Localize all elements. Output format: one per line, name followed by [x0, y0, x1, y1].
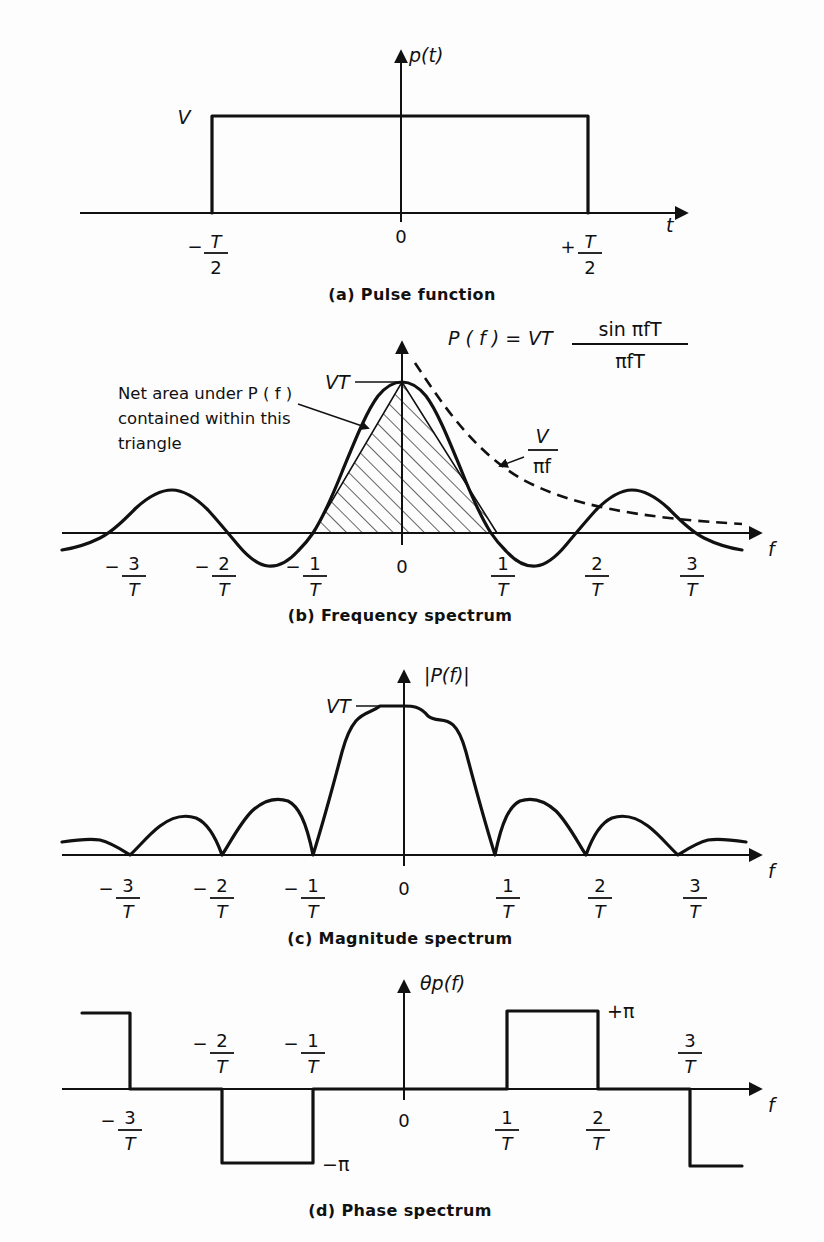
- svg-text:2: 2: [216, 875, 227, 896]
- svg-text:T: T: [690, 901, 703, 922]
- figure-root: p(t) t V 0 − T 2 + T 2 (a) Pulse functio…: [0, 0, 824, 1242]
- tick-numerator: T: [211, 231, 224, 252]
- svg-text:T: T: [217, 1056, 230, 1077]
- tick-minus-1-over-T: − 1 T: [285, 553, 327, 600]
- tick-numerator: T: [585, 231, 598, 252]
- svg-text:2: 2: [592, 1107, 603, 1128]
- svg-text:T: T: [503, 901, 516, 922]
- svg-text:−: −: [194, 556, 209, 577]
- tick-sign: −: [187, 236, 202, 257]
- svg-text:T: T: [593, 1133, 606, 1154]
- envelope-numerator: V: [536, 425, 551, 447]
- envelope-denominator: πf: [533, 455, 552, 477]
- figure-canvas: p(t) t V 0 − T 2 + T 2 (a) Pulse functio…: [0, 0, 824, 1242]
- panel-b-x-axis-label: f: [768, 538, 778, 560]
- panel-d-phase-curve: [82, 1011, 742, 1166]
- panel-a-tick-right: + T 2: [560, 231, 602, 278]
- panel-b-annotation: Net area under P ( f ) contained within …: [118, 384, 368, 453]
- svg-text:3: 3: [689, 875, 700, 896]
- panel-b-tick-labels: − 3 T − 2 T − 1 T 0 1: [104, 553, 704, 600]
- svg-text:1: 1: [501, 1107, 512, 1128]
- tick-minus-2-over-T: − 2 T: [194, 553, 236, 600]
- svg-text:T: T: [129, 579, 142, 600]
- formula-lhs: P ( f ) =: [448, 327, 521, 349]
- panel-c: VT |P(f)| f − 3 T − 2 T − 1 T: [62, 664, 778, 948]
- annotation-line-3: triangle: [118, 434, 182, 453]
- svg-text:1: 1: [502, 875, 513, 896]
- panel-b-formula: P ( f ) = VT sin πfT πfT: [448, 318, 688, 372]
- theta-label: θp(f): [420, 972, 465, 994]
- svg-text:T: T: [310, 579, 323, 600]
- svg-text:−: −: [283, 1033, 298, 1054]
- panel-b-area-triangle: [313, 382, 497, 533]
- tick-2-over-T: 2 T: [585, 553, 609, 600]
- svg-text:−: −: [104, 556, 119, 577]
- svg-text:1: 1: [497, 553, 508, 574]
- svg-text:T: T: [123, 901, 136, 922]
- tick-zero: 0: [396, 556, 407, 577]
- panel-d-minus-pi-label: −π: [322, 1153, 349, 1175]
- svg-text:3: 3: [124, 1107, 135, 1128]
- annotation-line-1: Net area under P ( f ): [118, 384, 292, 403]
- svg-text:T: T: [595, 901, 608, 922]
- svg-text:−: −: [192, 878, 207, 899]
- svg-text:T: T: [687, 579, 700, 600]
- panel-d-y-axis-label: θp(f): [420, 972, 465, 994]
- svg-text:T: T: [219, 579, 232, 600]
- tick-3-over-T: 3 T: [678, 1030, 702, 1077]
- panel-b-envelope-label: V πf: [500, 425, 558, 477]
- svg-text:T: T: [308, 901, 321, 922]
- panel-c-caption: (c) Magnitude spectrum: [287, 929, 512, 948]
- svg-text:T: T: [498, 579, 511, 600]
- panel-b: VT P ( f ) = VT sin πfT πfT V πf Net are…: [62, 318, 778, 625]
- svg-text:1: 1: [307, 1030, 318, 1051]
- tick-sign: +: [560, 236, 575, 257]
- tick-minus-2-over-T: − 2 T: [192, 1030, 234, 1077]
- svg-text:2: 2: [594, 875, 605, 896]
- panel-c-x-axis-label: f: [768, 860, 778, 882]
- tick-1-over-T: 1 T: [495, 1107, 519, 1154]
- svg-text:T: T: [592, 579, 605, 600]
- svg-text:T: T: [125, 1133, 138, 1154]
- panel-d: θp(f) f +π −π − 3 T − 2 T: [62, 972, 778, 1220]
- tick-denominator: 2: [584, 257, 595, 278]
- tick-zero: 0: [398, 1110, 409, 1131]
- svg-text:3: 3: [686, 553, 697, 574]
- svg-text:T: T: [502, 1133, 515, 1154]
- tick-zero: 0: [398, 878, 409, 899]
- tick-2-over-T: 2 T: [588, 875, 612, 922]
- annotation-line-2: contained within this: [118, 409, 291, 428]
- svg-text:1: 1: [309, 553, 320, 574]
- tick-denominator: 2: [210, 257, 221, 278]
- tick-minus-2-over-T: − 2 T: [192, 875, 234, 922]
- svg-text:3: 3: [684, 1030, 695, 1051]
- panel-d-tick-labels: − 3 T − 2 T − 1 T 0 1: [100, 1030, 702, 1154]
- svg-text:2: 2: [591, 553, 602, 574]
- formula-numerator: sin πfT: [599, 318, 662, 340]
- svg-text:−: −: [283, 878, 298, 899]
- panel-c-tick-labels: − 3 T − 2 T − 1 T 0 1 T: [98, 875, 707, 922]
- svg-text:3: 3: [128, 553, 139, 574]
- panel-b-caption: (b) Frequency spectrum: [288, 606, 513, 625]
- tick-1-over-T: 1 T: [496, 875, 520, 922]
- tick-2-over-T: 2 T: [586, 1107, 610, 1154]
- panel-c-y-axis-label: |P(f)|: [424, 664, 470, 687]
- svg-text:−: −: [285, 556, 300, 577]
- panel-d-x-axis-label: f: [768, 1094, 778, 1116]
- tick-minus-1-over-T: − 1 T: [283, 1030, 325, 1077]
- svg-text:1: 1: [307, 875, 318, 896]
- svg-text:T: T: [217, 901, 230, 922]
- panel-d-plus-pi-label: +π: [607, 1000, 634, 1022]
- tick-minus-3-over-T: − 3 T: [98, 875, 140, 922]
- panel-a: p(t) t V 0 − T 2 + T 2 (a) Pulse functio…: [80, 44, 686, 304]
- annotation-leader: [298, 404, 368, 428]
- panel-c-peak-label: VT: [326, 695, 352, 717]
- panel-a-y-axis-label: p(t): [408, 44, 443, 66]
- svg-text:−: −: [192, 1033, 207, 1054]
- svg-text:T: T: [308, 1056, 321, 1077]
- tick-3-over-T: 3 T: [680, 553, 704, 600]
- tick-3-over-T: 3 T: [683, 875, 707, 922]
- svg-text:−: −: [98, 878, 113, 899]
- panel-b-peak-label: VT: [325, 371, 351, 393]
- panel-a-tick-left: − T 2: [187, 231, 228, 278]
